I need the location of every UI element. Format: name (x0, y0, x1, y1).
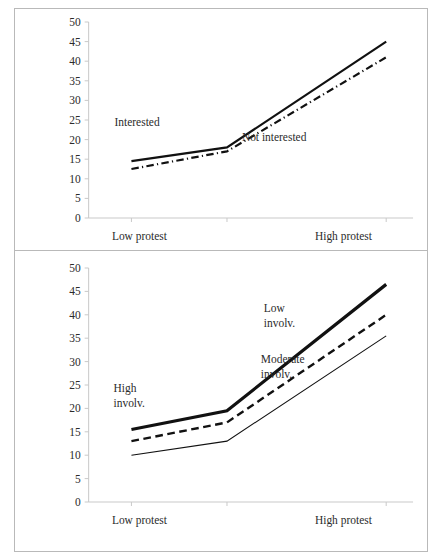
x-axis-label: High protest (315, 230, 373, 243)
series-annotation-moderate-involv: Moderate (261, 353, 305, 365)
y-tick-label: 5 (75, 192, 81, 204)
y-tick-label: 20 (69, 134, 81, 146)
series-annotation-high-involv: High (114, 382, 137, 395)
series-annotation-moderate-involv: involv. (261, 368, 292, 380)
y-tick-label: 20 (69, 402, 81, 414)
y-tick-label: 45 (69, 285, 81, 297)
y-tick-label: 45 (69, 36, 81, 48)
y-tick-label: 40 (69, 309, 81, 321)
series-line-interested (131, 42, 386, 162)
chart-panel-bottom: 05101520253035404550Low protestHigh prot… (14, 250, 428, 552)
chart-bottom-plot-area: 05101520253035404550Low protestHigh prot… (15, 251, 427, 551)
y-tick-label: 25 (69, 379, 81, 391)
y-tick-label: 35 (69, 75, 81, 87)
y-tick-label: 50 (69, 262, 81, 274)
y-tick-label: 30 (69, 94, 81, 106)
series-annotation-low-involv: involv. (264, 317, 295, 329)
series-annotation-interested: Interested (115, 116, 160, 128)
two-panel-line-chart-figure: 05101520253035404550Low protestHigh prot… (0, 0, 442, 560)
y-tick-label: 15 (69, 426, 81, 438)
y-tick-label: 50 (69, 16, 81, 28)
series-annotation-not-interested: Not interested (242, 131, 307, 143)
y-tick-label: 10 (69, 173, 81, 185)
x-axis-label: Low protest (112, 514, 168, 527)
y-tick-label: 35 (69, 332, 81, 344)
series-annotation-high-involv: involv. (114, 397, 145, 409)
y-tick-label: 30 (69, 356, 81, 368)
y-tick-label: 0 (75, 212, 81, 224)
series-line-not-interested (131, 57, 386, 169)
chart-panel-top: 05101520253035404550Low protestHigh prot… (14, 8, 428, 251)
y-tick-label: 15 (69, 153, 81, 165)
x-axis-label: Low protest (112, 230, 168, 243)
chart-top-plot-area: 05101520253035404550Low protestHigh prot… (15, 9, 427, 250)
series-line-high-involv (131, 284, 386, 429)
y-tick-label: 0 (75, 496, 81, 508)
y-tick-label: 25 (69, 114, 81, 126)
x-axis-label: High protest (315, 514, 373, 527)
series-annotation-low-involv: Low (264, 302, 286, 314)
series-line-moderate-involv (131, 336, 386, 455)
y-tick-label: 40 (69, 55, 81, 67)
y-tick-label: 10 (69, 449, 81, 461)
y-tick-label: 5 (75, 473, 81, 485)
